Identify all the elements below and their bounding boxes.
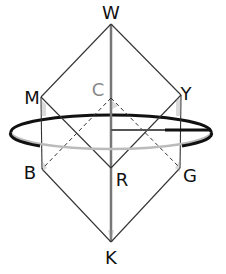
vertex-label-R: R	[116, 169, 129, 190]
rotation-ring-front-left	[10, 132, 40, 146]
vertex-label-K: K	[105, 247, 118, 268]
vertex-label-Y: Y	[180, 83, 193, 104]
edge-W-Y	[111, 24, 181, 95]
edge-M-R	[41, 97, 111, 168]
cube-rotation-diagram: W M Y C B G R K	[0, 0, 226, 274]
rotation-ring-front-right	[182, 132, 212, 146]
vertex-label-M: M	[24, 87, 40, 108]
edge-B-K	[42, 169, 111, 242]
vertex-label-C: C	[92, 79, 105, 100]
vertex-label-G: G	[183, 165, 197, 186]
vertex-label-W: W	[102, 2, 120, 23]
vertex-label-B: B	[24, 162, 36, 183]
